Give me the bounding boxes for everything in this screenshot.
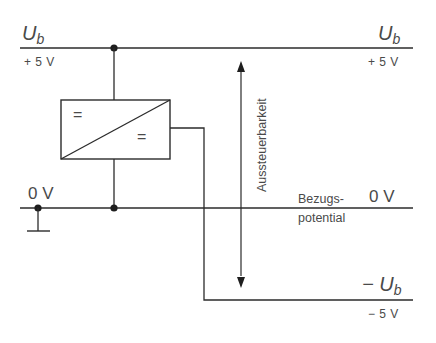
symbol: U (378, 22, 392, 44)
junction-dot-ground-mid (110, 204, 117, 211)
subscript: b (394, 282, 402, 298)
converter-output-symbol: = (137, 128, 146, 146)
label-zero-volt-left: 0 V (28, 184, 54, 204)
label-zero-volt-right: 0 V (369, 187, 395, 207)
label-ub-top-right: Ub (378, 22, 400, 47)
label-ub-bottom-right: − Ub (362, 273, 401, 298)
label-reference-potential-2: potential (298, 211, 345, 226)
label-voltage-bottom-right: − 5 V (368, 307, 399, 321)
symbol: − U (362, 273, 394, 295)
symbol: U (22, 22, 36, 44)
label-reference-potential-1: Bezugs- (298, 192, 344, 207)
converter-input-symbol: = (73, 106, 82, 124)
label-ub-top-left: Ub (22, 22, 44, 47)
swing-range-arrow-icon (237, 61, 245, 288)
label-voltage-top-left: + 5 V (24, 55, 55, 69)
subscript: b (392, 31, 400, 47)
label-swing-range: Aussteuerbarkeit (255, 98, 269, 192)
subscript: b (36, 31, 44, 47)
label-voltage-top-right: + 5 V (368, 55, 399, 69)
ground-icon (27, 208, 50, 231)
